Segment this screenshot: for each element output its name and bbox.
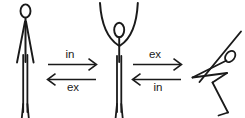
transition-1-forward: in bbox=[48, 48, 97, 70]
figure-left-leg bbox=[116, 104, 117, 118]
figure-foot bbox=[219, 113, 229, 116]
figure-right-leg bbox=[27, 104, 28, 118]
figure-right-leg bbox=[121, 104, 122, 118]
figure-shin bbox=[213, 83, 229, 113]
standing-figure-arms-down bbox=[17, 4, 34, 118]
transition-2-backward: in bbox=[133, 74, 182, 93]
transition-label-ex-2: ex bbox=[149, 48, 161, 60]
breathing-cycle-diagram: in ex ex bbox=[0, 0, 245, 118]
transition-1-backward: ex bbox=[48, 74, 97, 93]
figure-left-leg bbox=[22, 104, 23, 118]
transition-label-ex-1: ex bbox=[67, 81, 79, 93]
transition-label-in-1: in bbox=[66, 48, 75, 60]
transition-2-forward: ex bbox=[133, 48, 182, 70]
diagram-canvas: in ex ex bbox=[0, 0, 245, 118]
standing-figure-arms-raised bbox=[100, 3, 138, 118]
figure-head-icon bbox=[21, 4, 31, 17]
figure-head-icon bbox=[114, 23, 124, 37]
transition-label-in-2: in bbox=[154, 81, 163, 93]
forward-fold-figure bbox=[193, 32, 242, 116]
